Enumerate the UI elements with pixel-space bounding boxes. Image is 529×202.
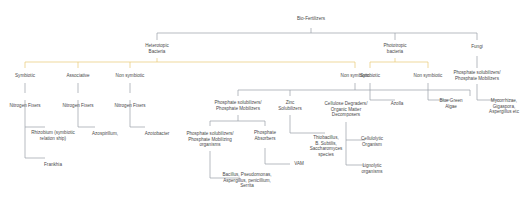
node-label: organisms [361, 169, 382, 174]
node-label: Blue Green [439, 98, 462, 103]
node-label: Non symbiotic [414, 73, 443, 78]
node-label: Azotobacter [145, 131, 170, 136]
node-label: Phosphate [254, 130, 276, 135]
node-label: Saccharomyces [310, 146, 343, 151]
node-bio-fertilizers: Bio-Fertilizers [297, 16, 325, 22]
node-label: Algae [445, 104, 457, 109]
node-cellulolytic: CellulolyticOrganism [361, 136, 383, 147]
node-non-symbiotic: Non symbiotic [116, 73, 145, 79]
node-vam: VAM [294, 161, 304, 167]
node-lignolytic: Lignolyticorganisms [361, 163, 382, 174]
node-label: Bacteria [149, 49, 166, 54]
node-label: Cellulose Degraders/ [325, 101, 368, 106]
node-azolla: Azolla [391, 101, 404, 107]
node-label: Phosphate solubilizers/ [186, 131, 233, 136]
node-phosphate-absorbers: PhosphateAbsorbers [254, 130, 276, 141]
node-label: Nitrogen Fixers [62, 103, 93, 108]
node-heterotropic-bacteria: HeterotopicBacteria [145, 43, 169, 54]
node-label: Bacillus, Pseudomonas, [222, 172, 271, 177]
node-label: Fungi [471, 44, 483, 49]
node-label: Organism [362, 142, 382, 147]
node-label: Non symbiotic [116, 73, 145, 78]
node-label: relation ship) [40, 136, 66, 141]
node-label: B. Subtilis, [315, 140, 337, 145]
node-nitrogen-fixers-3: Nitrogen Fixers [114, 103, 145, 109]
node-label: organisms [199, 142, 220, 147]
node-label: Bio-Fertilizers [297, 16, 325, 21]
node-bacillus: Bacillus, Pseudomonas,Aspergillus, penic… [222, 172, 271, 189]
node-fungi: Fungi [471, 44, 483, 50]
node-label: Decomposers [332, 112, 360, 117]
node-label: Aspergillus etc [489, 109, 519, 114]
node-symbiotic: Symbiotic [15, 73, 35, 79]
node-label: Solubilizers [278, 106, 302, 111]
node-label: Rhizobium (symbiotic [31, 130, 75, 135]
node-label: VAM [294, 161, 304, 166]
node-label: Symbiotic [360, 73, 380, 78]
node-label: Thiobacillus, [313, 135, 339, 140]
node-label: Gigaspora, [493, 103, 515, 108]
node-phototropic-bacteria: Phototropicbacteria [383, 43, 406, 54]
node-label: Lignolytic [362, 163, 381, 168]
node-label: species [318, 152, 334, 157]
node-fungi-phosphate: Phosphate solubilizers/Phosphate Mobiliz… [453, 70, 500, 81]
node-photo-symbiotic: Symbiotic [360, 73, 380, 79]
node-label: Phosphate solubilizers/ [453, 70, 500, 75]
node-label: Organic Matter [331, 106, 361, 111]
node-mycorrhizae: Mycorrhizae,Gigaspora,Aspergillus etc [489, 98, 519, 115]
node-phosphate-solubilizers: Phosphate solubilizers/Phosphate Mobiliz… [214, 100, 261, 111]
node-azospirillum: Azospirillum, [92, 131, 118, 137]
node-label: Phosphate Mobilizers [455, 76, 499, 81]
node-label: Zinc [286, 100, 295, 105]
node-frankia: Frankhia [44, 162, 62, 168]
node-label: Azospirillum, [92, 131, 118, 136]
node-blue-green-algae: Blue GreenAlgae [439, 98, 462, 109]
node-azotobacter: Azotobacter [145, 131, 170, 137]
bio-fertilizer-tree: Bio-Fertilizers HeterotopicBacteria Phot… [0, 0, 529, 202]
node-label: Phosphate solubilizers/ [214, 100, 261, 105]
node-label: Phototropic [383, 43, 406, 48]
node-nitrogen-fixers-2: Nitrogen Fixers [62, 103, 93, 109]
node-label: Cellulolytic [361, 136, 383, 141]
node-label: Associative [66, 73, 89, 78]
node-label: Nitrogen Fixers [9, 103, 40, 108]
node-label: Azolla [391, 101, 404, 106]
node-label: Aspergillus, penicillium, [223, 177, 271, 182]
node-label: Mycorrhizae, [491, 98, 517, 103]
node-photo-non-symbiotic: Non symbiotic [414, 73, 443, 79]
node-psm-organisms: Phosphate solubilizers/Phosphate Mobiliz… [186, 131, 233, 148]
node-label: Phosphate Mobilizing [188, 136, 232, 141]
node-label: bacteria [387, 49, 403, 54]
node-label: Nitrogen Fixers [114, 103, 145, 108]
node-nitrogen-fixers-1: Nitrogen Fixers [9, 103, 40, 109]
node-label: Phosphate Mobilizers [216, 106, 260, 111]
node-label: Absorbers [255, 136, 276, 141]
node-thiobacillus: Thiobacillus,B. Subtilis,Saccharomycessp… [310, 135, 343, 157]
node-zinc-solubilizers: ZincSolubilizers [278, 100, 302, 111]
node-label: Serrita [240, 183, 254, 188]
node-label: Frankhia [44, 162, 62, 167]
node-label: Symbiotic [15, 73, 35, 78]
node-rhizobium: Rhizobium (symbioticrelation ship) [31, 130, 75, 141]
node-associative: Associative [66, 73, 89, 79]
node-cellulose-degraders: Cellulose Degraders/Organic MatterDecomp… [325, 101, 368, 118]
node-label: Heterotopic [145, 43, 169, 48]
